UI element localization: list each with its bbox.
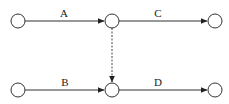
node-3: [208, 14, 222, 28]
edge-label-c: C: [154, 7, 161, 19]
node-6: [208, 83, 222, 97]
edge-label-d: D: [154, 76, 162, 88]
node-4: [11, 83, 25, 97]
node-2: [105, 14, 119, 28]
network-diagram: A C B D: [0, 0, 229, 104]
node-5: [105, 83, 119, 97]
node-1: [11, 14, 25, 28]
edge-label-a: A: [60, 7, 68, 19]
edge-label-b: B: [61, 76, 68, 88]
